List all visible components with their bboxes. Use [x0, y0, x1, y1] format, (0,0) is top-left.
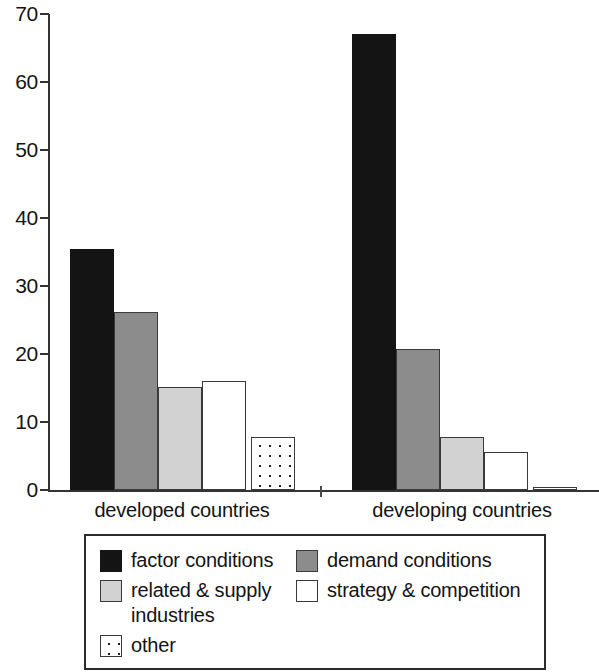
legend-row: factor conditions demand conditions — [100, 548, 536, 573]
legend-label-related-supply-industries: related & supply industries — [131, 578, 296, 628]
bar-developed-countries-demand — [114, 312, 158, 490]
legend-swatch-black-icon — [100, 550, 122, 572]
legend-swatch-lightgray-icon — [100, 580, 122, 602]
legend-item-demand-conditions: demand conditions — [296, 548, 536, 573]
bar-developed-countries-related — [158, 387, 202, 490]
legend-swatch-white-icon — [296, 580, 318, 602]
bar-developing-countries-factor — [352, 34, 396, 490]
legend-label-demand-conditions: demand conditions — [327, 548, 492, 573]
legend-item-other: other — [100, 633, 296, 658]
bar-developing-countries-demand — [396, 349, 440, 490]
legend: factor conditions demand conditions rela… — [84, 534, 546, 670]
bars-layer — [0, 0, 599, 490]
legend-item-related-supply-industries: related & supply industries — [100, 578, 296, 628]
legend-row: other — [100, 633, 536, 658]
legend-label-factor-conditions: factor conditions — [131, 548, 273, 573]
legend-label-other: other — [131, 633, 176, 658]
category-label-developed: developed countries — [32, 498, 332, 522]
legend-swatch-dotted-icon — [100, 635, 122, 657]
legend-swatch-darkgray-icon — [296, 550, 318, 572]
bar-developing-countries-related — [440, 437, 484, 490]
legend-label-strategy-competition: strategy & competition — [327, 578, 520, 603]
bar-developing-countries-other — [533, 487, 577, 490]
x-axis-line — [48, 490, 599, 492]
plot-area: 010203040506070 developed countries deve… — [0, 0, 599, 530]
legend-item-strategy-competition: strategy & competition — [296, 578, 536, 603]
legend-item-factor-conditions: factor conditions — [100, 548, 296, 573]
category-label-developing: developing countries — [312, 498, 599, 522]
bar-developing-countries-strategy — [484, 452, 528, 490]
legend-row: related & supply industries strategy & c… — [100, 578, 536, 628]
bar-developed-countries-strategy — [202, 381, 246, 490]
bar-developed-countries-other — [251, 437, 295, 490]
bar-chart: 010203040506070 developed countries deve… — [0, 0, 599, 672]
bar-developed-countries-factor — [70, 249, 114, 490]
